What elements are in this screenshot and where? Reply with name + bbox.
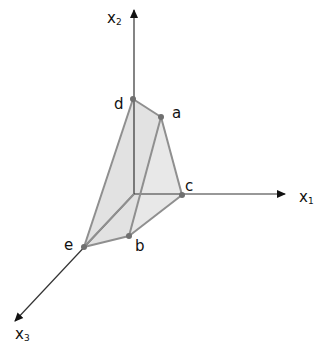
vertex-b [126, 233, 132, 239]
x3-label-subscript: 3 [24, 333, 30, 343]
x2-axis-label: x2 [107, 11, 122, 27]
x1-axis-label: x1 [299, 190, 314, 206]
x2-label-base: x [107, 9, 116, 27]
vertex-e [81, 244, 87, 250]
vertex-label-e: e [64, 238, 73, 253]
vertex-label-a: a [172, 106, 181, 121]
x2-label-subscript: 2 [116, 17, 122, 27]
polytope-diagram [0, 0, 315, 348]
x1-label-base: x [299, 188, 308, 206]
x3-axis-label: x3 [15, 327, 30, 343]
x1-label-subscript: 1 [308, 196, 314, 206]
x3-label-base: x [15, 325, 24, 343]
vertex-label-b: b [135, 239, 145, 254]
vertex-a [158, 114, 164, 120]
vertex-label-c: c [185, 179, 193, 194]
vertex-label-d: d [114, 97, 124, 112]
vertex-d [130, 96, 136, 102]
